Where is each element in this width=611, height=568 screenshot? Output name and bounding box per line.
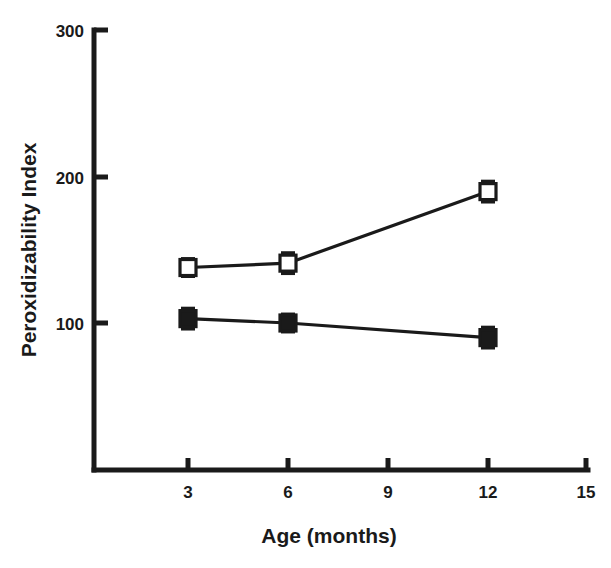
y-tick-label-300: 300 — [56, 22, 84, 41]
series-line-filled-square — [188, 319, 488, 338]
x-tick-label-9: 9 — [383, 483, 392, 502]
data-point-filled-square — [280, 315, 296, 331]
series-line-open-square — [188, 192, 488, 268]
figure-container: 300 200 100 3 6 9 12 15 Age (months) Per… — [0, 0, 611, 568]
data-point-filled-square — [480, 330, 496, 346]
y-tick-label-100: 100 — [56, 315, 84, 334]
series-points-open-square — [180, 181, 496, 276]
x-axis-title: Age (months) — [261, 524, 396, 547]
line-chart: 300 200 100 3 6 9 12 15 Age (months) Per… — [0, 0, 611, 568]
data-point-filled-square — [180, 311, 196, 327]
y-tick-label-200: 200 — [56, 169, 84, 188]
y-axis-title: Peroxidizability Index — [17, 142, 40, 357]
x-tick-label-12: 12 — [479, 483, 498, 502]
x-tick-label-6: 6 — [283, 483, 292, 502]
data-point-open-square — [480, 184, 496, 200]
x-tick-label-3: 3 — [183, 483, 192, 502]
data-point-open-square — [180, 260, 196, 276]
data-point-open-square — [280, 255, 296, 271]
x-tick-label-15: 15 — [577, 483, 596, 502]
